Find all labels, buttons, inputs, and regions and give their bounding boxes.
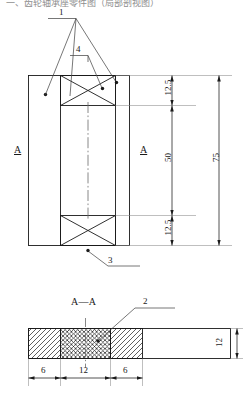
dim-thickness-12: 12 (215, 336, 224, 350)
dim-center-12: 12 (79, 366, 88, 375)
callout-3-leader (88, 251, 140, 266)
callout-4-dot (101, 87, 104, 90)
dim-right-6: 6 (123, 366, 128, 375)
callout-1-leader (48, 19, 116, 97)
callout-3-label: 3 (108, 256, 113, 265)
section-hatch-right (111, 329, 143, 359)
callout-4-label: 4 (76, 45, 81, 54)
plan-view-geometry (29, 76, 130, 246)
drawing-canvas: 一、齿轮轴承座零件图（局部剖视图） (0, 0, 249, 402)
plan-bottom-x-box (61, 216, 116, 246)
dim-bottom-12-5: 12.5 (164, 217, 173, 239)
section-title: A—A (71, 297, 96, 307)
drawing-vector-layer (0, 0, 249, 402)
dim-overall-75: 75 (212, 151, 221, 165)
callout-1-label: 1 (59, 8, 64, 17)
section-view-geometry (29, 329, 231, 359)
callout-2-dot (96, 339, 99, 342)
plan-top-x-box (61, 76, 116, 106)
section-mark-left: A (14, 145, 21, 155)
dim-top-12-5: 12.5 (164, 77, 173, 99)
callout-2-label: 2 (143, 297, 148, 306)
dim-middle-50: 50 (164, 151, 173, 165)
section-mark-middle: A (140, 145, 147, 155)
section-hatch-left (29, 329, 61, 359)
callout-3-dot (86, 249, 89, 252)
plan-outer-rect (29, 76, 130, 246)
dim-left-6: 6 (41, 366, 46, 375)
